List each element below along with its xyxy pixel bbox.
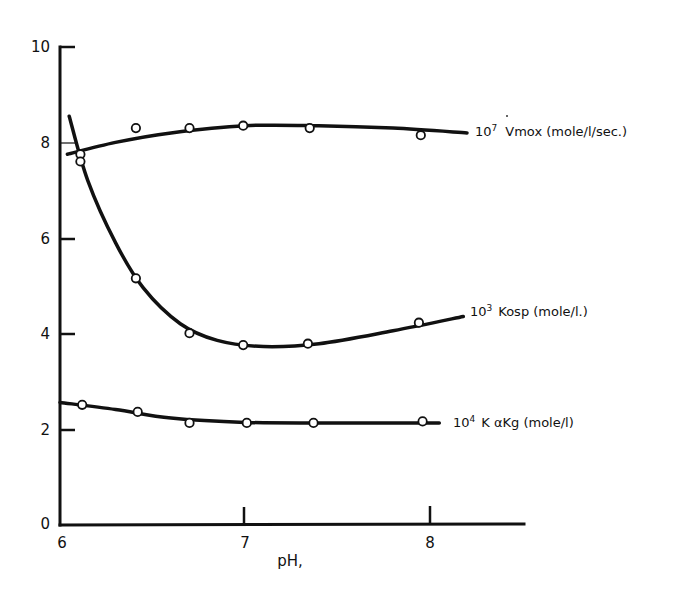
series-label-kosp-sup: 3 (487, 303, 493, 313)
data-point-kakg (134, 408, 142, 416)
x-axis-title: pH, (277, 552, 303, 570)
x-tick-label: 7 (240, 534, 250, 552)
series-label-kosp: 103Kosp (mole/l.) (470, 303, 588, 319)
data-point-vmax (306, 124, 314, 132)
y-tick-label: 4 (40, 325, 50, 343)
data-point-kakg (418, 417, 426, 425)
y-tick-labels: 10 8 6 4 2 0 (31, 38, 50, 533)
series-label-kakg: 104K αKg (mole/l) (453, 414, 574, 430)
series-label-vmax-sup: 7 (492, 123, 498, 133)
curves (60, 116, 467, 423)
data-point-kosp (132, 274, 140, 282)
data-point-kakg (78, 401, 86, 409)
data-point-kakg (185, 419, 193, 427)
x-tick-label: 8 (425, 534, 435, 552)
x-ticks (244, 506, 430, 524)
curve-kosp (69, 116, 463, 347)
data-point-kosp (76, 157, 84, 165)
data-point-kakg (243, 419, 251, 427)
series-label-kosp-rest: Kosp (mole/l.) (498, 304, 587, 319)
y-tick-label: 8 (40, 134, 50, 152)
y-tick-label: 10 (31, 38, 50, 56)
series-label-vmax: 107Vmox (mole/l/sec.) (475, 123, 627, 139)
series-label-kakg-sup: 4 (470, 414, 476, 424)
data-point-vmax (185, 124, 193, 132)
series-label-vmax-rest: Vmox (mole/l/sec.) (505, 124, 627, 139)
data-point-vmax (132, 124, 140, 132)
chart: 10 8 6 4 2 0 6 7 8 pH, 107Vmox (mole/l/s… (0, 0, 683, 595)
series-label-vmax-main: 10 (475, 124, 492, 139)
series-label-kakg-main: 10 (453, 415, 470, 430)
data-point-vmax (417, 131, 425, 139)
y-tick-label: 6 (40, 230, 50, 248)
y-tick-label: 2 (40, 421, 50, 439)
series-label-kakg-rest: K αKg (mole/l) (481, 415, 574, 430)
x-tick-label: 6 (57, 534, 67, 552)
data-points (76, 122, 427, 428)
y-ticks (60, 47, 75, 430)
curve-vmax (67, 125, 467, 154)
data-point-kosp (185, 329, 193, 337)
data-point-kakg (309, 419, 317, 427)
axes (60, 47, 524, 525)
data-point-vmax (239, 122, 247, 130)
stray-dot (506, 115, 508, 117)
data-point-kosp (304, 340, 312, 348)
y-tick-label: 0 (40, 515, 50, 533)
x-axis (60, 524, 524, 525)
series-label-kosp-main: 10 (470, 304, 487, 319)
x-tick-labels: 6 7 8 (57, 534, 435, 552)
data-point-kosp (415, 319, 423, 327)
data-point-kosp (239, 341, 247, 349)
